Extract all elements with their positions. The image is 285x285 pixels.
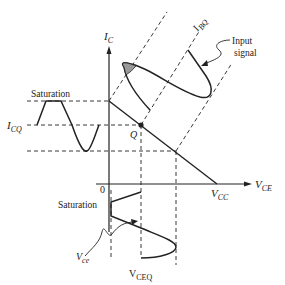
ic-output-waveform — [37, 101, 99, 151]
diagonal-dashed-lines — [109, 12, 232, 151]
saturation-top-label: Saturation — [31, 89, 70, 99]
x-axis-label: VCE — [255, 178, 272, 193]
vceq-label: VCEQ — [129, 268, 152, 282]
load-line — [109, 101, 217, 184]
x-axis — [96, 182, 252, 187]
input-signal-pointer — [204, 40, 230, 64]
input-signal-label-line2: signal — [234, 48, 257, 58]
saturation-bottom-label: Saturation — [58, 200, 97, 210]
horizontal-dashed-lines — [27, 101, 176, 151]
vcc-label: VCC — [211, 187, 229, 202]
q-point-marker — [138, 122, 143, 127]
q-point-label: Q — [130, 129, 138, 140]
y-axis-label: IC — [103, 30, 114, 45]
vertical-dashed-lines — [111, 125, 176, 265]
load-line-diagram: IC VCE VCC ICQ IBQ Q 0 Saturation Satura… — [0, 0, 285, 285]
ibq-label: IBQ — [190, 15, 210, 36]
origin-label: 0 — [100, 184, 105, 195]
vce-arrowhead — [131, 219, 138, 225]
vce-pointer — [85, 222, 135, 256]
input-signal-label-line1: Input — [232, 36, 252, 46]
input-signal-arrowhead — [201, 60, 208, 66]
icq-label: ICQ — [6, 119, 22, 134]
